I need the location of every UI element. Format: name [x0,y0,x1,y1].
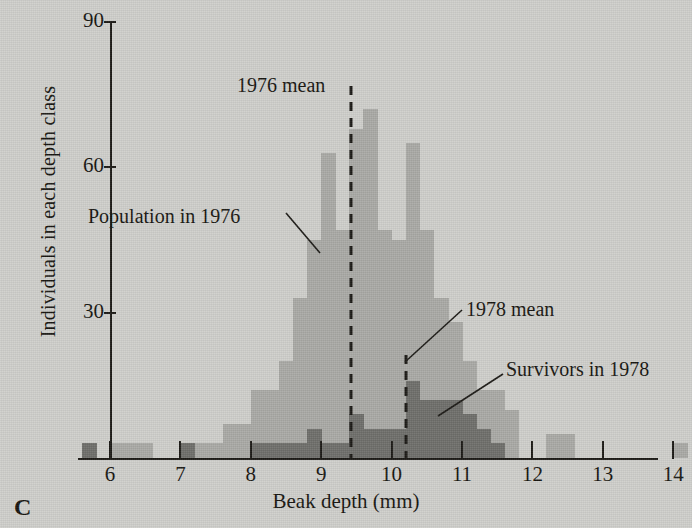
y-axis-title: Individuals in each depth class [37,22,60,402]
mean-1978-label: 1978 mean [466,298,554,321]
population-1976-leader-line [286,213,320,253]
mean-1976-label: 1976 mean [237,74,325,97]
mean-1978-leader-line [405,310,462,362]
survivors-1978-leader-line [438,374,503,416]
population-1976-label: Population in 1976 [88,205,240,228]
x-axis-title: Beak depth (mm) [0,489,692,514]
panel-letter: C [14,494,31,521]
figure-panel-c: 306090 67891011121314 Individuals in eac… [0,0,692,528]
survivors-1978-label: Survivors in 1978 [506,358,649,381]
annotation-overlay [0,0,692,528]
